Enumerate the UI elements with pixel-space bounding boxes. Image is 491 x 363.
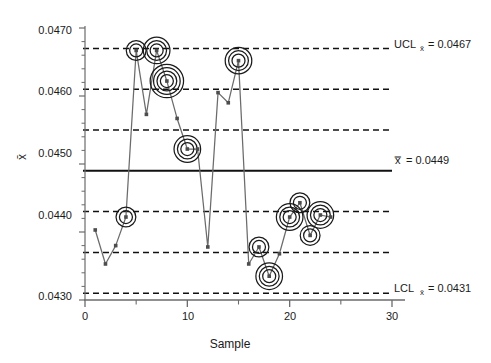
- data-point-marker: [288, 215, 292, 219]
- lcl-label-value: = 0.0431: [428, 282, 471, 294]
- data-point-marker: [247, 262, 251, 266]
- y-tick-label-0460: 0.0460: [38, 85, 72, 97]
- data-point-marker: [278, 252, 282, 256]
- x-tick-label-0: 0: [82, 310, 88, 322]
- x-axis-title: Sample: [210, 337, 251, 351]
- x-tick-label-20: 20: [284, 310, 296, 322]
- data-point-marker: [267, 274, 271, 278]
- x-tick-label-10: 10: [182, 310, 194, 322]
- data-point-marker: [257, 245, 261, 249]
- data-point-marker: [329, 215, 333, 219]
- y-tick-label-0440: 0.0440: [38, 209, 72, 221]
- ucl-label-value: = 0.0467: [428, 38, 471, 50]
- data-point-marker: [319, 213, 323, 217]
- data-point-marker: [93, 228, 97, 232]
- data-point-marker: [104, 262, 108, 266]
- data-point-marker: [186, 147, 190, 151]
- data-point-marker: [175, 117, 179, 121]
- ucl-label-subscript: x̄: [420, 44, 424, 53]
- data-point-marker: [308, 234, 312, 238]
- data-point-marker: [114, 244, 118, 248]
- x-tick-label-30: 30: [386, 310, 398, 322]
- ucl-label-prefix: UCL: [394, 38, 416, 50]
- data-point-marker: [155, 49, 159, 53]
- data-point-marker: [165, 79, 169, 83]
- data-point-marker: [196, 147, 200, 151]
- data-point-marker: [226, 101, 230, 105]
- data-point-marker: [206, 245, 210, 249]
- control-chart: 0.0470 0.0460 0.0450 0.0440 0.0430 0 10 …: [0, 0, 491, 363]
- y-tick-label-0450: 0.0450: [38, 147, 72, 159]
- center-label-value: = 0.0449: [406, 154, 449, 166]
- lcl-label-subscript: x̄: [420, 288, 424, 297]
- lcl-label-prefix: LCL: [394, 282, 414, 294]
- center-label-subscript: x̿: [394, 154, 402, 166]
- y-tick-label-0470: 0.0470: [38, 24, 72, 36]
- y-axis-title-group: x̄: [15, 154, 29, 160]
- data-point-marker: [237, 59, 241, 63]
- y-axis-title: x̄: [15, 154, 29, 160]
- data-point-marker: [216, 91, 220, 95]
- xbar-control-chart-canvas: 0.0470 0.0460 0.0450 0.0440 0.0430 0 10 …: [0, 0, 491, 363]
- data-point-marker: [134, 49, 138, 53]
- data-point-marker: [298, 201, 302, 205]
- y-tick-label-0430: 0.0430: [38, 290, 72, 302]
- data-point-marker: [124, 215, 128, 219]
- data-point-marker: [145, 113, 149, 117]
